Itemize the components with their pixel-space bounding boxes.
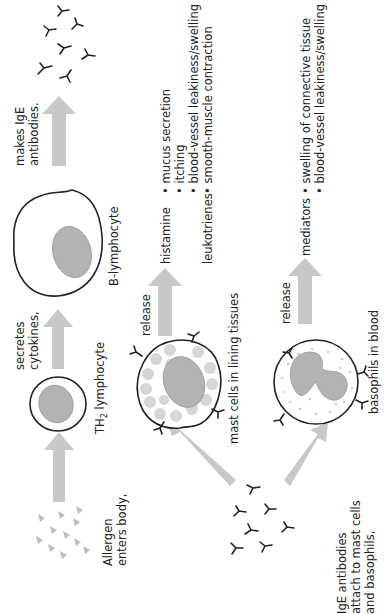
makes-ige-label-2: antibodies. — [27, 102, 41, 166]
ige-antibodies-cluster-top — [38, 6, 95, 82]
mediator-effect-2: • blood-vessel leakiness/swelling — [313, 4, 327, 194]
secretes-label: secretes — [13, 321, 27, 370]
arrow-mast-release — [148, 268, 182, 336]
ige-antibodies-cluster-bottom — [231, 485, 294, 554]
histamine-effect-2: • itching — [173, 144, 187, 194]
allergy-diagram: Allergen enters body, TH2 lymphocyte sec… — [0, 0, 385, 614]
makes-ige-label: makes IgE — [13, 107, 27, 166]
b-lymphocyte-label: B-lymphocyte — [107, 206, 121, 286]
leukotriene-effect-1: • smooth-muscle contraction — [201, 26, 215, 194]
mast-cells-label: mast cells in lining tissues — [227, 293, 241, 444]
release-baso-label: release — [279, 282, 293, 324]
histamine-effect-1: • mucus secretion — [159, 89, 173, 194]
release-mast-label: release — [139, 294, 153, 336]
allergen-label: Allergen — [101, 518, 115, 566]
ige-attach-label-2: attach to mast cells — [349, 500, 363, 614]
arrow-baso-release — [288, 258, 322, 324]
arrow-th2-to-b — [43, 309, 73, 369]
arrow-to-basophil — [284, 422, 328, 486]
ige-attach-label-1: IgE antibodies — [335, 532, 349, 614]
th2-label: TH2 lymphocyte — [93, 342, 109, 435]
leukotrienes-label: leukotrienes — [201, 193, 215, 264]
basophil-cell — [274, 340, 368, 425]
basophils-label: basophils in blood — [367, 310, 381, 414]
arrow-allergen-to-th2 — [44, 432, 74, 502]
histamine-label: histamine — [159, 207, 173, 264]
allergen-particles — [36, 506, 90, 559]
mediator-effect-1: • swelling of connective tissue — [299, 18, 313, 194]
mediators-label: mediators — [299, 198, 313, 256]
histamine-effect-3: • blood-vessel leakiness/swelling — [187, 4, 201, 194]
th2-lymphocyte-cell — [30, 377, 86, 431]
mast-cell — [130, 332, 224, 434]
arrow-b-to-antibodies — [42, 96, 76, 166]
secretes-label-2: cytokines, — [27, 311, 41, 370]
b-lymphocyte-cell — [14, 190, 102, 296]
ige-attach-label-3: and basophils, — [363, 531, 377, 614]
allergen-label-2: enters body, — [115, 494, 129, 566]
